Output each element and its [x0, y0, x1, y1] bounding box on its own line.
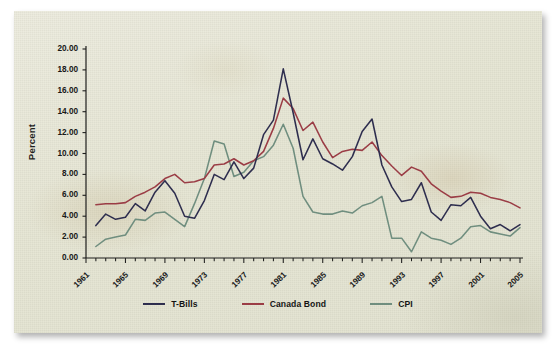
series-line-t-bills — [96, 69, 520, 231]
y-tick-label: 20.00 — [38, 44, 78, 53]
legend-label: Canada Bond — [270, 299, 327, 309]
y-tick-label: 18.00 — [38, 65, 78, 74]
legend-swatch-icon — [370, 303, 392, 305]
y-tick-label: 16.00 — [38, 86, 78, 95]
y-tick-label: 2.00 — [38, 232, 78, 241]
chart-legend: T-BillsCanada BondCPI — [14, 299, 542, 309]
y-tick-label: 8.00 — [38, 169, 78, 178]
series-line-canada-bond — [96, 98, 520, 208]
legend-label: T-Bills — [171, 299, 198, 309]
legend-swatch-icon — [143, 303, 165, 305]
y-tick-label: 12.00 — [38, 128, 78, 137]
legend-item-canada-bond[interactable]: Canada Bond — [242, 299, 327, 309]
legend-item-cpi[interactable]: CPI — [370, 299, 413, 309]
y-tick-label: 14.00 — [38, 107, 78, 116]
legend-label: CPI — [398, 299, 413, 309]
legend-item-t-bills[interactable]: T-Bills — [143, 299, 198, 309]
y-tick-label: 0.00 — [38, 253, 78, 262]
y-tick-label: 6.00 — [38, 190, 78, 199]
chart-figure: Percent T-BillsCanada BondCPI 0.002.004.… — [14, 11, 542, 333]
y-tick-label: 4.00 — [38, 211, 78, 220]
legend-swatch-icon — [242, 303, 264, 305]
y-tick-label: 10.00 — [38, 149, 78, 158]
